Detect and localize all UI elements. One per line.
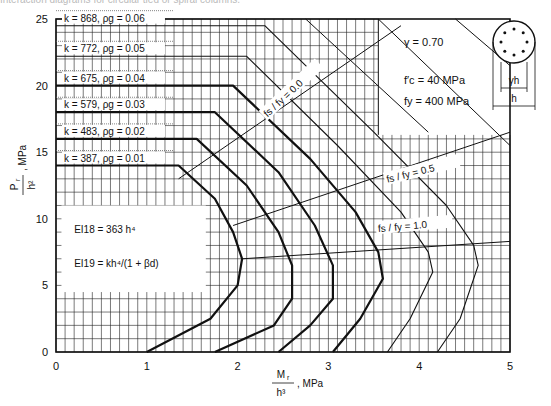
y-tick-label: 25	[36, 13, 48, 25]
svg-text:fs / fy = 0.0: fs / fy = 0.0	[261, 77, 305, 119]
y-tick-label: 5	[42, 279, 48, 291]
x-tick-label: 2	[235, 360, 241, 372]
svg-text:h²: h²	[26, 180, 37, 190]
svg-text:h³: h³	[277, 387, 287, 398]
curve-label: k = 387, ρg = 0.01	[64, 153, 145, 164]
svg-text:P: P	[9, 183, 20, 190]
y-tick-label: 20	[36, 80, 48, 92]
ratio-line	[179, 26, 401, 179]
svg-text:r: r	[287, 374, 290, 381]
x-axis-label: Mrh³, MPa	[272, 369, 324, 398]
curve-label: k = 483, ρg = 0.02	[64, 126, 145, 137]
curve-label: k = 579, ρg = 0.03	[64, 99, 145, 110]
curve-label: k = 675, ρg = 0.04	[64, 73, 145, 84]
svg-text:r: r	[14, 178, 21, 181]
fy-param: fy = 400 MPa	[404, 95, 470, 107]
curve-label: k = 772, ρg = 0.05	[64, 43, 145, 54]
svg-text:h: h	[511, 93, 517, 104]
x-tick-label: 3	[325, 360, 331, 372]
x-tick-label: 4	[416, 360, 422, 372]
y-tick-label: 10	[36, 213, 48, 225]
ei18-label: EI18 = 363 h⁴	[74, 224, 135, 235]
fc-param: f′c = 40 MPa	[404, 74, 466, 86]
gamma-param: γ = 0.70	[404, 36, 443, 48]
y-tick-label: 0	[42, 346, 48, 358]
ratio-label: fs / fy = 0.0	[259, 59, 324, 121]
interaction-diagram-chart: k = 387, ρg = 0.01k = 483, ρg = 0.02k = …	[0, 0, 551, 406]
x-tick-label: 0	[53, 360, 59, 372]
svg-text:, MPa: , MPa	[17, 144, 28, 171]
y-tick-label: 15	[36, 146, 48, 158]
curve-label: k = 868, ρg = 0.06	[64, 13, 145, 24]
series-label-backgrounds	[56, 11, 174, 164]
svg-text:, MPa: , MPa	[297, 378, 324, 389]
y-axis-label: Prh², MPa	[9, 144, 37, 195]
svg-text:M: M	[277, 369, 285, 380]
ei19-label: EI19 = kh⁴/(1 + βd)	[74, 258, 159, 269]
x-tick-label: 1	[144, 360, 150, 372]
x-tick-label: 5	[507, 360, 513, 372]
grid	[56, 17, 550, 352]
svg-text:γh: γh	[509, 75, 520, 86]
